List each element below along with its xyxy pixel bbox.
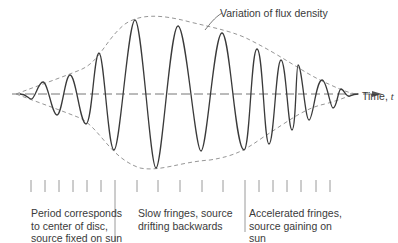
tick-marks xyxy=(31,180,330,192)
region-center-of-disc: Period corresponds to center of disc, so… xyxy=(31,207,122,243)
envelope-annotation: Variation of flux density xyxy=(220,7,328,20)
time-axis xyxy=(12,91,382,97)
time-axis-label: Time, t xyxy=(362,90,394,103)
region-slow-fringes: Slow fringes, source drifting backwards xyxy=(138,207,233,232)
region-accelerated-fringes: Accelerated fringes, source gaining on s… xyxy=(249,207,342,243)
flux-envelope xyxy=(16,16,356,169)
time-variable: t xyxy=(391,91,394,102)
